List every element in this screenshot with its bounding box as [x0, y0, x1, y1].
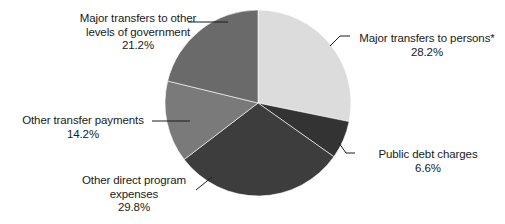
slice-label-persons-line1: Major transfers to persons* [359, 32, 494, 44]
pie-chart: Major transfers to other levels of gover… [0, 0, 505, 224]
slice-label-persons: Major transfers to persons* 28.2% [352, 32, 502, 59]
slice-label-direct-program-line2: expenses [110, 188, 158, 200]
slice-value-transfer-payments: 14.2% [8, 128, 158, 142]
slice-label-other-levels-line2: levels of government [86, 26, 190, 38]
slice-label-direct-program-line1: Other direct program [82, 174, 186, 186]
slice-label-other-levels-line1: Major transfers to other [80, 12, 196, 24]
slice-label-debt-line1: Public debt charges [378, 148, 477, 160]
slice-value-persons: 28.2% [352, 46, 502, 60]
slice-label-debt: Public debt charges 6.6% [356, 148, 500, 175]
leader-line-persons [330, 36, 350, 46]
slice-value-debt: 6.6% [356, 162, 500, 176]
slice-label-transfer-payments: Other transfer payments 14.2% [8, 114, 158, 141]
slice-value-other-levels: 21.2% [46, 39, 230, 53]
slice-value-direct-program: 29.8% [60, 201, 208, 215]
pie-slice [258, 10, 351, 122]
slice-label-other-levels: Major transfers to other levels of gover… [46, 12, 230, 53]
slice-label-direct-program: Other direct program expenses 29.8% [60, 174, 208, 215]
slice-label-transfer-payments-line1: Other transfer payments [22, 114, 144, 126]
